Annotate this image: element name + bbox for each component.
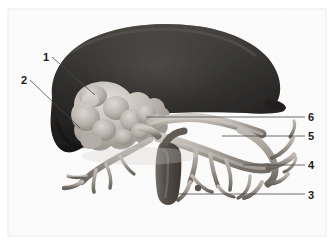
callout-number-1[interactable]: 1 [40, 52, 49, 63]
grain-overlay [8, 9, 326, 236]
anatomical-figure: 126543 [0, 0, 334, 245]
callout-number-4[interactable]: 4 [308, 160, 317, 171]
callout-number-6[interactable]: 6 [308, 112, 317, 123]
callout-number-5[interactable]: 5 [308, 131, 317, 142]
anatomy-render-canvas [0, 0, 334, 245]
callout-number-3[interactable]: 3 [308, 190, 317, 201]
callout-number-2[interactable]: 2 [18, 75, 27, 86]
